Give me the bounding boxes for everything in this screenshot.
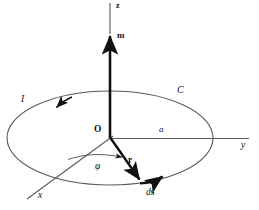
contour-c-label: C xyxy=(177,85,184,95)
radius-a-label: a xyxy=(159,125,164,134)
current-direction-arrow xyxy=(57,97,73,108)
ds-element-s: s xyxy=(151,187,155,197)
z-axis-label: z xyxy=(116,2,120,10)
figure-canvas: z m y x O a C I r φ ds xyxy=(0,0,259,210)
diagram-svg xyxy=(0,0,259,210)
radius-vector xyxy=(111,138,140,180)
angle-phi-label: φ xyxy=(95,162,100,172)
origin-label: O xyxy=(94,125,101,135)
m-vector-label: m xyxy=(117,31,125,40)
r-vector-label: r xyxy=(128,156,132,166)
x-axis-label: x xyxy=(38,191,42,201)
line-element-vector xyxy=(140,177,163,184)
azimuthal-angle-arc xyxy=(68,155,122,160)
current-i-label: I xyxy=(21,95,24,105)
ds-element-label: ds xyxy=(146,188,154,198)
y-axis-label: y xyxy=(241,141,245,151)
